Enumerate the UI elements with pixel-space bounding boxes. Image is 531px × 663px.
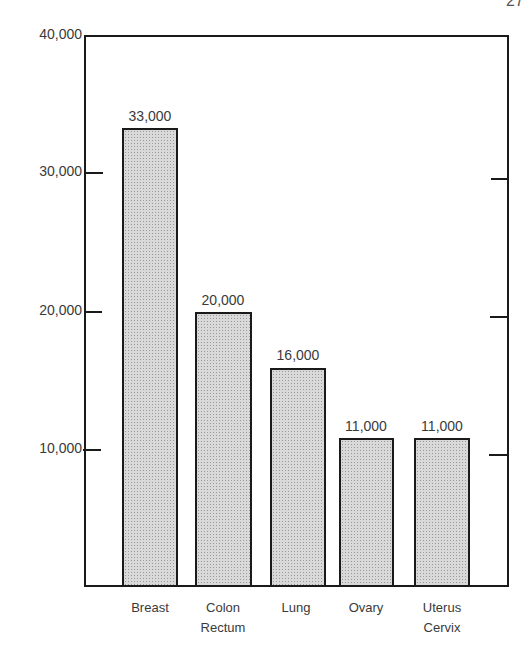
value-label-ovary: 11,000 <box>326 418 406 434</box>
ytick-label-40000: 40,000 <box>2 26 82 42</box>
bar-lung <box>270 368 326 587</box>
right-tick-20000 <box>490 316 508 318</box>
bar-colon-rectum <box>195 312 252 587</box>
ytick-label-30000: 30,000 <box>2 163 82 179</box>
bar-ovary <box>339 438 394 587</box>
xlabel-uterus-cervix: Uterus Cervix <box>402 598 482 638</box>
bar-uterus-cervix <box>414 438 470 587</box>
ytick-label-10000: 10,000 <box>2 440 82 456</box>
ytick-label-20000: 20,000 <box>2 302 82 318</box>
xlabel-lung: Lung <box>256 598 336 618</box>
xlabel-colon-rectum: Colon Rectum <box>183 598 263 638</box>
left-tick-20000 <box>84 311 102 313</box>
xlabel-breast: Breast <box>110 598 190 618</box>
right-tick-10000 <box>489 454 507 456</box>
value-label-colon-rectum: 20,000 <box>183 292 263 308</box>
right-tick-30000 <box>491 178 509 180</box>
left-tick-10000 <box>83 449 101 451</box>
value-label-uterus-cervix: 11,000 <box>402 418 482 434</box>
value-label-lung: 16,000 <box>258 347 338 363</box>
page-number: 27 <box>506 0 524 10</box>
bar-breast <box>122 128 178 587</box>
value-label-breast: 33,000 <box>110 108 190 124</box>
xlabel-ovary: Ovary <box>326 598 406 618</box>
left-tick-30000 <box>85 172 103 174</box>
